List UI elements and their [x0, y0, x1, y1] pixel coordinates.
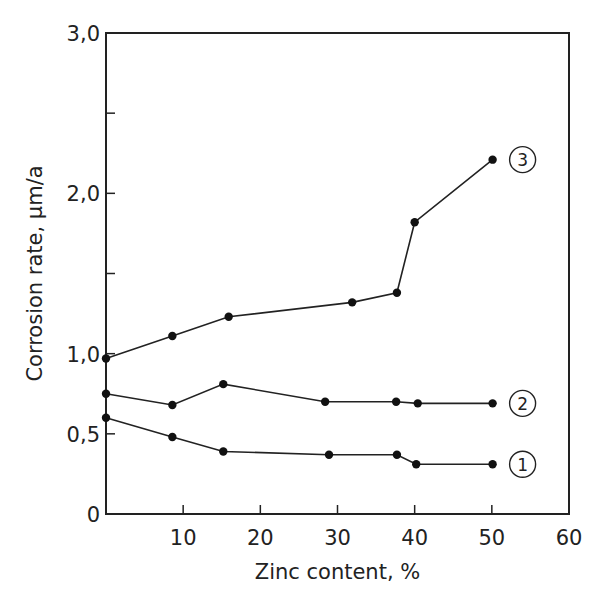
data-point — [224, 313, 232, 321]
series-line-1 — [106, 418, 493, 464]
data-point — [348, 298, 356, 306]
data-point — [219, 447, 227, 455]
x-tick-label: 40 — [401, 526, 428, 550]
data-point — [168, 433, 176, 441]
x-axis-label: Zinc content, % — [255, 560, 420, 584]
series-label: 2 — [517, 394, 528, 414]
x-tick-label: 10 — [170, 526, 197, 550]
data-point — [488, 460, 496, 468]
data-point — [392, 398, 400, 406]
y-tick-label: 3,0 — [67, 22, 100, 46]
data-point — [321, 398, 329, 406]
data-point — [325, 450, 333, 458]
data-point — [393, 450, 401, 458]
data-point — [102, 414, 110, 422]
x-tick-label: 60 — [556, 526, 583, 550]
line-chart: 10203040506000,51,02,03,0Zinc content, %… — [0, 0, 601, 593]
y-tick-label: 0,5 — [67, 423, 100, 447]
series-line-2 — [106, 384, 493, 405]
y-tick-label: 1,0 — [67, 343, 100, 367]
y-tick-label: 2,0 — [67, 182, 100, 206]
data-point — [102, 354, 110, 362]
data-point — [414, 399, 422, 407]
series-line-3 — [106, 160, 493, 359]
series-label: 1 — [517, 455, 528, 475]
data-point — [168, 332, 176, 340]
data-point — [393, 289, 401, 297]
x-tick-label: 20 — [247, 526, 274, 550]
data-point — [219, 380, 227, 388]
data-point — [410, 218, 418, 226]
y-tick-label: 0 — [87, 503, 100, 527]
data-point — [412, 460, 420, 468]
data-point — [168, 401, 176, 409]
x-tick-label: 50 — [478, 526, 505, 550]
data-point — [488, 155, 496, 163]
series-label: 3 — [517, 150, 528, 170]
plot-frame — [106, 33, 569, 514]
data-point — [102, 390, 110, 398]
data-point — [488, 399, 496, 407]
chart-container: 10203040506000,51,02,03,0Zinc content, %… — [0, 0, 601, 593]
y-axis-label: Corrosion rate, µm/a — [23, 165, 47, 381]
x-tick-label: 30 — [324, 526, 351, 550]
